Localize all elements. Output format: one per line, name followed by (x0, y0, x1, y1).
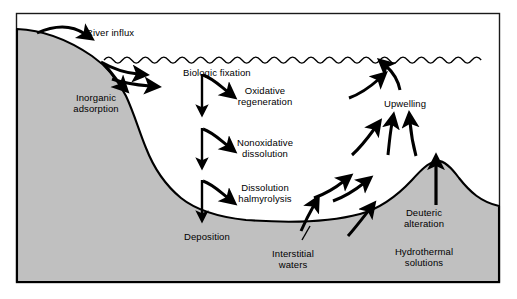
label-nonoxidative-dissolution: Nonoxidative dissolution (219, 137, 311, 159)
figure-canvas: River influx Inorganic adsorption Biolog… (0, 0, 517, 299)
label-inorganic-adsorption: Inorganic adsorption (56, 92, 136, 114)
label-biologic-fixation: Biologic fixation (183, 67, 251, 78)
label-deposition: Deposition (184, 231, 230, 242)
label-river-influx: River influx (86, 27, 134, 38)
label-deuteric-alteration: Deuteric alteration (388, 207, 460, 229)
label-dissolution-halmyrolysis: Dissolution halmyrolysis (219, 182, 311, 204)
label-oxidative-regeneration: Oxidative regeneration (219, 85, 311, 107)
label-interstitial-waters: Interstitial waters (255, 248, 331, 270)
label-upwelling: Upwelling (384, 98, 426, 109)
label-hydrothermal-solutions: Hydrothermal solutions (378, 246, 470, 268)
